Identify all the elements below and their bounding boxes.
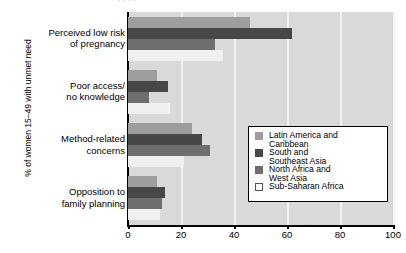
x-tick-label-20: 20 <box>166 229 196 240</box>
category-label-line: concerns <box>15 145 125 157</box>
gridline-100 <box>393 12 395 225</box>
legend-swatch-sub-saharan-africa <box>255 183 263 191</box>
cropped-header-text: · · · · <box>0 0 406 9</box>
legend-item[interactable]: Sub-Saharan Africa <box>249 182 387 199</box>
bar-group <box>128 70 393 114</box>
category-label-line: of pregnancy <box>15 38 125 50</box>
x-tick-label-60: 60 <box>272 229 302 240</box>
x-axis-line <box>127 225 394 227</box>
bar <box>128 156 184 167</box>
bar <box>128 39 215 50</box>
legend-swatch-south-southeast-asia <box>255 149 263 157</box>
legend-item[interactable]: North Africa andWest Asia <box>249 165 387 182</box>
bar <box>128 198 162 209</box>
bar <box>128 176 157 187</box>
bar <box>128 187 165 198</box>
category-label-line: Perceived low risk <box>15 27 125 39</box>
legend-swatch-north-africa-west-asia <box>255 166 263 174</box>
category-label-line: no knowledge <box>15 91 125 103</box>
category-label: Poor access/no knowledge <box>15 80 125 103</box>
x-tick-label-0: 0 <box>113 229 143 240</box>
category-label-line: family planning <box>15 198 125 210</box>
x-tick-label-80: 80 <box>325 229 355 240</box>
x-tick-label-100: 100 <box>378 229 406 240</box>
legend-swatch-latin-america <box>255 132 263 140</box>
bar <box>128 103 170 114</box>
bar <box>128 92 149 103</box>
category-label-line: Opposition to <box>15 186 125 198</box>
legend-label-line: Sub-Saharan Africa <box>269 182 387 191</box>
bar <box>128 209 160 220</box>
x-tick-label-40: 40 <box>219 229 249 240</box>
category-label-line: Poor access/ <box>15 80 125 92</box>
legend-item[interactable]: South andSoutheast Asia <box>249 148 387 165</box>
bar-group <box>128 17 393 61</box>
legend-item[interactable]: Latin America andCaribbean <box>249 131 387 148</box>
bar <box>128 134 202 145</box>
bar <box>128 145 210 156</box>
bar <box>128 70 157 81</box>
bar <box>128 81 168 92</box>
bar <box>128 28 292 39</box>
category-label: Opposition tofamily planning <box>15 186 125 209</box>
bar <box>128 50 223 61</box>
y-axis-title: % of women 15–49 with unmet need <box>23 28 33 188</box>
bar <box>128 17 250 28</box>
grouped-bar-chart: · · · · % of women 15–49 with unmet need… <box>0 0 406 253</box>
category-label: Method-relatedconcerns <box>15 133 125 156</box>
legend[interactable]: Latin America andCaribbeanSouth andSouth… <box>248 126 388 202</box>
category-label-line: Method-related <box>15 133 125 145</box>
bar <box>128 123 192 134</box>
category-label: Perceived low riskof pregnancy <box>15 27 125 50</box>
